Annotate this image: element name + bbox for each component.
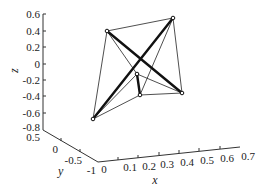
x-tick-label: 0 bbox=[101, 163, 107, 175]
x-tick-label: 0.2 bbox=[142, 160, 156, 172]
node-B bbox=[171, 16, 175, 20]
y-tick-label: 0.5 bbox=[26, 131, 40, 143]
x-axis: 0 0.1 0.2 0.3 0.4 0.5 0.6 0.7 x bbox=[98, 146, 255, 187]
y-tick-label: -1 bbox=[87, 164, 96, 176]
x-tick-label: 0.5 bbox=[200, 154, 214, 166]
x-tick-label: 0.4 bbox=[180, 156, 194, 168]
z-tick-label: 0.4 bbox=[26, 25, 40, 37]
node-A bbox=[105, 29, 109, 33]
z-tick-label: 0 bbox=[35, 58, 41, 70]
node-E bbox=[135, 72, 139, 76]
node-D bbox=[91, 117, 95, 121]
edge-B-C bbox=[173, 18, 182, 93]
y-axis: 0.5 0 -0.5 -1 y bbox=[26, 130, 98, 178]
y-tick-label: 0 bbox=[53, 143, 59, 155]
x-axis-label: x bbox=[151, 173, 158, 187]
z-axis-label: z bbox=[7, 68, 21, 74]
edge-B-D bbox=[93, 18, 173, 119]
x-tick-label: 0.7 bbox=[241, 150, 255, 162]
node-F bbox=[138, 93, 142, 97]
y-axis-label: y bbox=[57, 164, 64, 178]
z-tick-label: 0.2 bbox=[26, 41, 40, 53]
edge-E-F bbox=[137, 74, 140, 95]
edge-F-C bbox=[140, 93, 182, 95]
edge-D-F bbox=[93, 95, 140, 119]
x-tick-label: 0.1 bbox=[123, 161, 137, 173]
node-C bbox=[180, 91, 184, 95]
z-tick-label: 0.6 bbox=[26, 8, 40, 20]
y-tick-label: -0.5 bbox=[65, 154, 83, 166]
z-tick-label: -0.2 bbox=[23, 74, 40, 86]
z-tick-label: -0.4 bbox=[23, 90, 41, 102]
x-tick-label: 0.3 bbox=[160, 158, 174, 170]
edge-B-F bbox=[140, 18, 173, 95]
z-tick-label: -0.6 bbox=[23, 107, 41, 119]
x-tick-label: 0.6 bbox=[220, 152, 234, 164]
z-axis: 0.6 0.4 0.2 0 -0.2 -0.4 -0.6 -0.8 z bbox=[7, 8, 46, 133]
edge-E-C bbox=[137, 74, 182, 93]
3d-plot: 0.6 0.4 0.2 0 -0.2 -0.4 -0.6 -0.8 z 0.5 … bbox=[0, 0, 263, 193]
